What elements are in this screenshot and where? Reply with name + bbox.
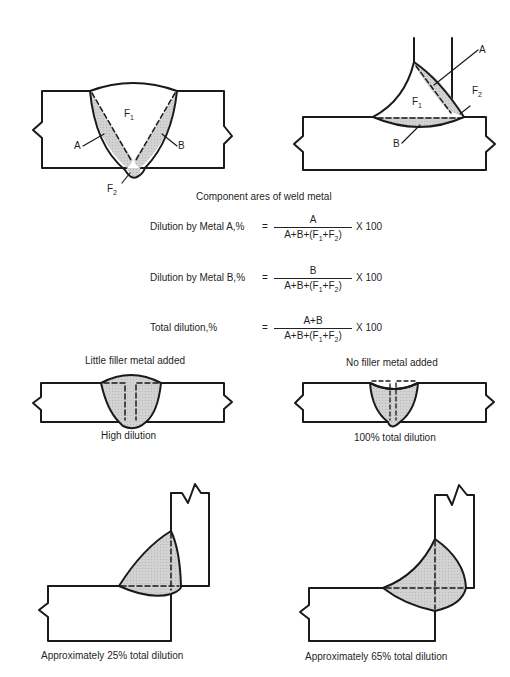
denominator: A+B+(F1+F2)	[274, 229, 352, 245]
fraction-bar	[274, 227, 352, 228]
numerator: A+B	[274, 315, 352, 327]
equals-sign: =	[262, 272, 268, 283]
butt-weld-diagram	[33, 83, 232, 183]
label-f2: F2	[107, 183, 117, 196]
fillet-65-caption: Approximately 65% total dilution	[305, 651, 447, 662]
numerator: A	[274, 214, 352, 226]
fillet-65-diagram	[300, 485, 474, 641]
equals-sign: =	[262, 221, 268, 232]
weld-dilution-diagrams	[0, 0, 510, 677]
label-f1: F1	[124, 108, 134, 121]
label-b-fillet: B	[393, 138, 400, 149]
fraction: B A+B+(F1+F2)	[274, 265, 352, 296]
fillet-25-caption: Approximately 25% total dilution	[41, 650, 183, 661]
no-filler-caption: 100% total dilution	[354, 432, 436, 443]
denominator: A+B+(F1+F2)	[274, 330, 352, 346]
formula-name: Dilution by Metal B,%	[150, 272, 245, 283]
label-f2-fillet: F2	[472, 85, 482, 98]
no-filler-diagram	[295, 381, 494, 427]
little-filler-diagram	[33, 375, 232, 428]
fraction-bar	[274, 278, 352, 279]
little-filler-title: Little filler metal added	[85, 355, 185, 366]
equals-sign: =	[262, 322, 268, 333]
multiplier: X 100	[356, 272, 382, 283]
fraction: A+B A+B+(F1+F2)	[274, 315, 352, 346]
fraction-bar	[274, 328, 352, 329]
denominator: A+B+(F1+F2)	[274, 280, 352, 296]
little-filler-caption: High dilution	[101, 430, 156, 441]
label-b: B	[178, 140, 185, 151]
fraction: A A+B+(F1+F2)	[274, 214, 352, 245]
numerator: B	[274, 265, 352, 277]
fillet-weld-diagram	[294, 38, 495, 170]
multiplier: X 100	[356, 322, 382, 333]
multiplier: X 100	[356, 221, 382, 232]
label-a-fillet: A	[479, 44, 486, 55]
figure-caption: Component ares of weld metal	[196, 191, 332, 202]
fillet-25-diagram	[39, 484, 209, 641]
label-f1-fillet: F1	[412, 96, 422, 109]
formula-name: Total dilution,%	[150, 322, 217, 333]
no-filler-title: No filler metal added	[346, 357, 438, 368]
formula-name: Dilution by Metal A,%	[150, 221, 245, 232]
label-a: A	[74, 140, 81, 151]
